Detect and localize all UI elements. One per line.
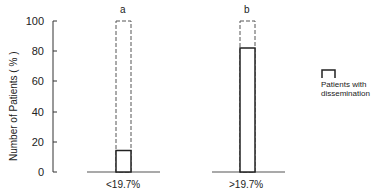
y-tick-0: 0 bbox=[20, 166, 44, 178]
category-label-low: <19.7% bbox=[106, 179, 140, 190]
y-tick-40: 40 bbox=[20, 106, 44, 118]
bar-b-annotation: b bbox=[244, 4, 250, 15]
bar-a-annotation: a bbox=[120, 4, 126, 15]
y-axis bbox=[0, 0, 378, 196]
category-label-high: >19.7% bbox=[229, 179, 263, 190]
legend-label: Patients with dissemination bbox=[321, 80, 370, 98]
y-tick-100: 100 bbox=[20, 15, 44, 27]
y-tick-20: 20 bbox=[20, 136, 44, 148]
legend-line-2: dissemination bbox=[321, 89, 370, 98]
y-tick-60: 60 bbox=[20, 75, 44, 87]
legend-line-1: Patients with bbox=[321, 80, 370, 89]
y-tick-80: 80 bbox=[20, 45, 44, 57]
